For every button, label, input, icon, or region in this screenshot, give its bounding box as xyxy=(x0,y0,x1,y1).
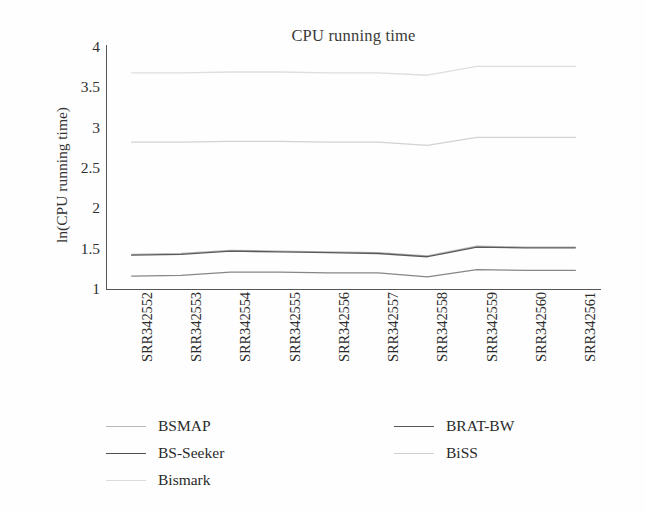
x-tick-label: SRR342560 xyxy=(533,292,550,402)
y-tick-label: 3 xyxy=(60,119,100,137)
legend-label: Bismark xyxy=(158,471,211,489)
x-tick-label: SRR342553 xyxy=(188,292,205,402)
x-tick-label: SRR342557 xyxy=(385,292,402,402)
y-tick-label: 4 xyxy=(60,38,100,56)
legend-swatch-icon xyxy=(106,453,146,454)
x-tick-label: SRR342558 xyxy=(434,292,451,402)
x-tick-label: SRR342552 xyxy=(139,292,156,402)
legend-label: BS-Seeker xyxy=(158,444,224,462)
series-line-biss xyxy=(132,137,576,145)
legend-label: BSMAP xyxy=(158,417,211,435)
x-axis-ticks: SRR342552SRR342553SRR342554SRR342555SRR3… xyxy=(107,292,600,402)
chart-legend: BSMAPBS-SeekerBismarkBRAT-BWBiSS xyxy=(106,414,576,496)
chart-plot-lines xyxy=(107,47,600,289)
legend-item-biss[interactable]: BiSS xyxy=(394,441,478,465)
x-tick-label: SRR342555 xyxy=(287,292,304,402)
legend-item-brat-bw[interactable]: BRAT-BW xyxy=(394,414,514,438)
y-tick-label: 1 xyxy=(60,280,100,298)
x-tick-label: SRR342561 xyxy=(582,292,599,402)
legend-item-bismark[interactable]: Bismark xyxy=(106,468,211,492)
chart-figure: CPU running time ln(CPU running time) 11… xyxy=(0,0,645,513)
legend-swatch-icon xyxy=(394,426,434,427)
y-tick-label: 2.5 xyxy=(60,159,100,177)
series-line-bismark xyxy=(132,66,576,75)
y-tick-label: 1.5 xyxy=(60,240,100,258)
x-tick-label: SRR342556 xyxy=(336,292,353,402)
legend-label: BiSS xyxy=(446,444,478,462)
y-tick-label: 2 xyxy=(60,199,100,217)
legend-swatch-icon xyxy=(106,480,146,481)
y-axis-ticks: 11.522.533.54 xyxy=(56,0,100,513)
legend-label: BRAT-BW xyxy=(446,417,514,435)
x-tick-label: SRR342559 xyxy=(484,292,501,402)
y-tick-label: 3.5 xyxy=(60,78,100,96)
series-line-brat-bw xyxy=(132,270,576,277)
legend-swatch-icon xyxy=(106,426,146,427)
legend-item-bsmap[interactable]: BSMAP xyxy=(106,414,211,438)
chart-title: CPU running time xyxy=(107,26,600,46)
x-tick-label: SRR342554 xyxy=(237,292,254,402)
legend-item-bs-seeker[interactable]: BS-Seeker xyxy=(106,441,224,465)
legend-swatch-icon xyxy=(394,453,434,454)
